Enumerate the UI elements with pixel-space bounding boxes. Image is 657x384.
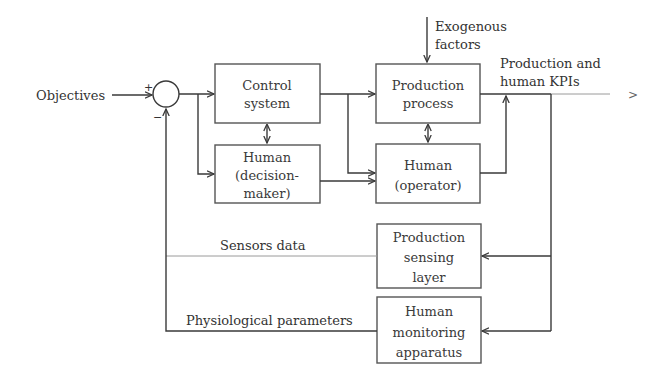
plus-sign: + [144,81,153,94]
production-process-label-2: process [403,96,454,111]
decision-maker-label-2: (decision- [235,168,299,183]
objectives-label: Objectives [36,88,105,103]
sensing-label-2: sensing [404,250,454,265]
production-process-block [376,64,480,123]
output-label-2: human KPIs [500,74,580,89]
control-system-label-1: Control [242,78,292,93]
operator-label-1: Human [404,158,453,173]
sensors-data-label: Sensors data [220,238,306,253]
operator-output-arrow [480,96,506,173]
control-system-block [215,64,320,123]
summing-junction [153,81,179,107]
control-loop-diagram: Objectives + − Control system Human (dec… [0,0,657,384]
sensing-label-3: layer [412,270,446,285]
monitoring-label-2: monitoring [393,325,466,340]
junction-to-decision-maker-arrow [198,94,214,174]
decision-maker-label-1: Human [243,150,292,165]
exogenous-label-2: factors [435,37,481,52]
operator-label-2: (operator) [394,178,461,193]
sensing-label-1: Production [393,230,466,245]
physiological-label: Physiological parameters [186,313,353,328]
decision-maker-label-3: maker) [244,186,291,201]
human-operator-block [376,144,480,203]
monitoring-label-1: Human [405,304,454,319]
control-system-label-2: system [244,96,290,111]
control-to-operator-arrow [348,94,375,173]
output-label-1: Production and [500,56,601,71]
production-process-label-1: Production [392,78,465,93]
minus-sign: − [153,111,162,124]
monitoring-label-3: apparatus [396,345,462,360]
exogenous-label-1: Exogenous [435,19,507,34]
output-arrow-icon: > [628,88,638,102]
